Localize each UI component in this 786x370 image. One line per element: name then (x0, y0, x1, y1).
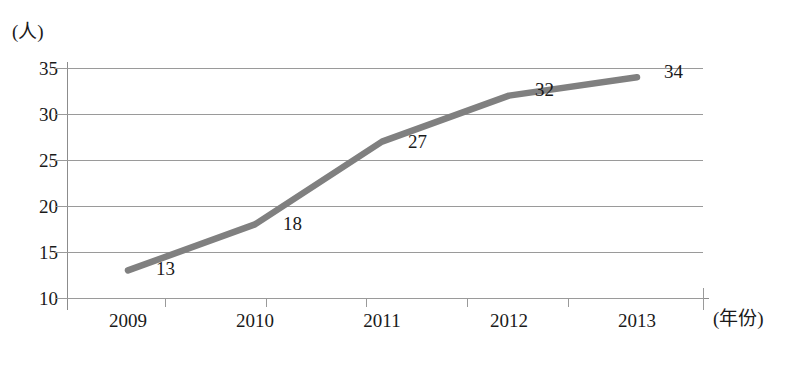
x-tick-label-2011: 2011 (337, 311, 427, 330)
y-axis-unit-label: (人) (12, 22, 44, 41)
gridline-20 (67, 206, 703, 207)
point-label-2012: 32 (535, 80, 554, 99)
y-tick-label-35: 35 (14, 59, 58, 78)
y-tick-mark-20 (55, 206, 67, 207)
x-tick-label-2010: 2010 (210, 311, 300, 330)
y-tick-mark-35 (55, 68, 67, 69)
y-tick-label-25: 25 (14, 151, 58, 170)
x-tick-mark-2009 (165, 298, 166, 307)
gridline-30 (67, 114, 703, 115)
point-label-2010: 18 (283, 214, 302, 233)
y-tick-label-20: 20 (14, 197, 58, 216)
gridline-35 (67, 68, 703, 69)
plot-right-edge (703, 288, 704, 310)
gridline-25 (67, 160, 703, 161)
x-tick-mark-2010 (266, 298, 267, 307)
line-chart: (人) (年份) 35 30 25 20 15 10 (0, 0, 786, 370)
x-tick-label-2012: 2012 (464, 311, 554, 330)
x-tick-mark-2011 (366, 298, 367, 307)
gridline-10 (67, 298, 703, 299)
x-tick-label-2009: 2009 (83, 311, 173, 330)
x-tick-mark-2013 (568, 298, 569, 307)
y-tick-mark-10 (55, 298, 67, 299)
point-label-2013: 34 (664, 62, 683, 81)
y-tick-label-15: 15 (14, 243, 58, 262)
y-tick-mark-25 (55, 160, 67, 161)
x-axis-unit-label: (年份) (713, 309, 764, 328)
y-tick-label-10: 10 (14, 289, 58, 308)
point-label-2009: 13 (156, 259, 175, 278)
y-tick-label-30: 30 (14, 105, 58, 124)
y-tick-mark-15 (55, 252, 67, 253)
y-tick-mark-30 (55, 114, 67, 115)
gridline-15 (67, 252, 703, 253)
point-label-2011: 27 (408, 132, 427, 151)
x-tick-label-2013: 2013 (592, 311, 682, 330)
x-tick-mark-2012 (467, 298, 468, 307)
